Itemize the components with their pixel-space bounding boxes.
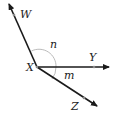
label-x: X bbox=[25, 61, 35, 74]
point-y-dot bbox=[93, 66, 96, 69]
vertex-x-dot bbox=[36, 66, 39, 69]
label-y: Y bbox=[89, 51, 98, 64]
point-z-dot bbox=[83, 97, 86, 100]
label-angle-m: m bbox=[64, 69, 74, 82]
point-w-dot bbox=[13, 14, 16, 17]
angle-diagram: W Y Z X n m bbox=[0, 0, 116, 119]
label-z: Z bbox=[70, 100, 79, 113]
label-w: W bbox=[20, 8, 33, 21]
label-angle-n: n bbox=[50, 38, 57, 51]
